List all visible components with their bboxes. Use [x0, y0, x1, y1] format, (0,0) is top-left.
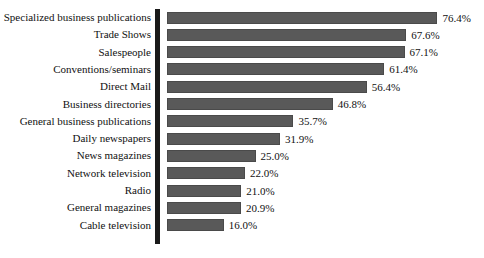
value-label: 20.9%: [246, 202, 274, 214]
value-label: 56.4%: [372, 81, 400, 93]
value-label: 67.1%: [410, 46, 438, 58]
bar: [167, 219, 224, 231]
bar: [167, 12, 437, 24]
bar-row: Conventions/seminars61.4%: [0, 61, 484, 78]
value-label: 46.8%: [338, 98, 366, 110]
bar-row: Business directories46.8%: [0, 96, 484, 113]
bar: [167, 29, 406, 41]
bar-chart: Specialized business publications76.4%Tr…: [0, 0, 484, 258]
category-label: Conventions/seminars: [1, 61, 151, 78]
category-label: Daily newspapers: [1, 130, 151, 147]
category-label: General magazines: [1, 199, 151, 216]
bar: [167, 133, 280, 145]
bar-row: News magazines25.0%: [0, 147, 484, 164]
bar-row: General magazines20.9%: [0, 199, 484, 216]
category-label: Cable television: [1, 217, 151, 234]
category-label: Salespeople: [1, 44, 151, 61]
value-label: 35.7%: [298, 115, 326, 127]
value-label: 16.0%: [229, 219, 257, 231]
category-label: General business publications: [1, 113, 151, 130]
value-label: 25.0%: [261, 150, 289, 162]
bar: [167, 185, 241, 197]
value-label: 76.4%: [442, 12, 470, 24]
bar: [167, 46, 405, 58]
bar-row: Specialized business publications76.4%: [0, 9, 484, 26]
bar-row: Salespeople67.1%: [0, 44, 484, 61]
category-label: Business directories: [1, 96, 151, 113]
bar-row: General business publications35.7%: [0, 113, 484, 130]
bar-row: Daily newspapers31.9%: [0, 130, 484, 147]
bar-row: Cable television16.0%: [0, 217, 484, 234]
category-label: Trade Shows: [1, 26, 151, 43]
bar-row: Radio21.0%: [0, 182, 484, 199]
bar: [167, 81, 367, 93]
bar-row: Network television22.0%: [0, 165, 484, 182]
category-label: News magazines: [1, 147, 151, 164]
category-label: Specialized business publications: [1, 9, 151, 26]
bar: [167, 115, 293, 127]
bar: [167, 202, 241, 214]
bar: [167, 167, 245, 179]
value-label: 67.6%: [411, 29, 439, 41]
value-label: 22.0%: [250, 167, 278, 179]
value-label: 21.0%: [246, 185, 274, 197]
category-label: Direct Mail: [1, 78, 151, 95]
value-label: 61.4%: [389, 63, 417, 75]
bar: [167, 150, 256, 162]
category-label: Network television: [1, 165, 151, 182]
bar: [167, 63, 384, 75]
plot-area: Specialized business publications76.4%Tr…: [0, 0, 484, 258]
category-label: Radio: [1, 182, 151, 199]
value-label: 31.9%: [285, 133, 313, 145]
bar-row: Direct Mail56.4%: [0, 78, 484, 95]
bar-row: Trade Shows67.6%: [0, 26, 484, 43]
bar: [167, 98, 333, 110]
